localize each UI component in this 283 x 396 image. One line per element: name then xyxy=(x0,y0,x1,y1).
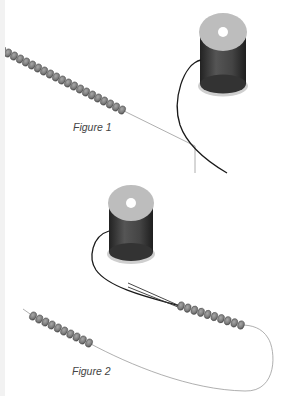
thread-tail xyxy=(122,110,195,173)
figure-2 xyxy=(23,185,273,391)
thread-pass-through xyxy=(128,287,178,307)
spool-body-bottom xyxy=(109,243,153,261)
thread-pass-through xyxy=(128,283,180,306)
figure-2-caption: Figure 2 xyxy=(72,365,111,377)
diagram-canvas xyxy=(0,0,283,396)
spool-body-bottom xyxy=(200,75,246,94)
figure-1 xyxy=(0,13,248,173)
spool-hole xyxy=(126,198,136,208)
spool-hole xyxy=(218,27,228,37)
beading-instruction-illustration: Figure 1 Figure 2 xyxy=(0,0,283,396)
page-edge-shadow xyxy=(0,0,5,396)
figure-1-caption: Figure 1 xyxy=(73,121,112,133)
